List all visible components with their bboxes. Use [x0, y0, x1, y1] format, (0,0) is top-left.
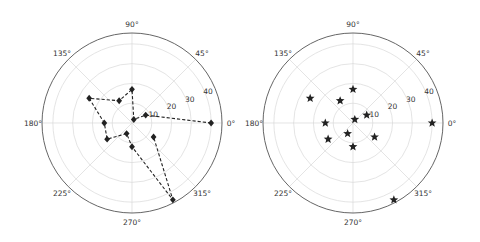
angle-tick-label: 0° — [448, 119, 457, 128]
angle-tick-label: 225° — [274, 189, 292, 198]
star-marker-icon — [343, 129, 352, 137]
angle-tick-label: 270° — [344, 218, 362, 227]
star-marker-icon — [389, 195, 398, 203]
radial-tick-label: 20 — [388, 102, 398, 111]
star-marker-icon — [321, 118, 330, 126]
figure: 0°45°90°135°180°225°270°315°10203040 0°4… — [0, 0, 480, 242]
angle-tick-label: 180° — [245, 119, 263, 128]
angular-gridline — [353, 59, 417, 123]
angle-tick-label: 135° — [274, 49, 292, 58]
star-marker-icon — [370, 132, 379, 140]
radial-tick-label: 30 — [406, 95, 416, 104]
angular-gridline — [289, 59, 353, 123]
polar-plot-scatter: 0°45°90°135°180°225°270°315°10203040 — [0, 0, 480, 242]
angle-tick-label: 315° — [414, 189, 432, 198]
star-marker-icon — [306, 94, 315, 102]
star-marker-icon — [336, 96, 345, 104]
star-marker-icon — [324, 135, 333, 143]
angle-tick-label: 90° — [346, 20, 360, 29]
polar-grid — [263, 33, 443, 213]
angular-gridline — [289, 123, 353, 187]
radial-tick-label: 10 — [369, 110, 379, 119]
angular-gridline — [353, 123, 417, 187]
angle-tick-label: 45° — [416, 49, 430, 58]
radial-tick-label: 40 — [424, 87, 434, 96]
